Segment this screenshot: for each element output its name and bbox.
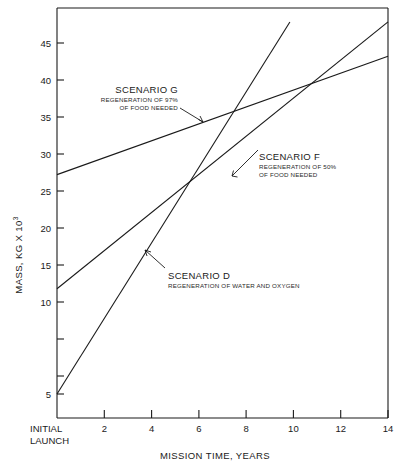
annotation-leaders [145,108,258,268]
y-tick-label-35: 35 [40,112,51,123]
leader-arrow-scenario-g [199,116,204,122]
x-axis-ticks [104,410,388,418]
x-axis-title: MISSION TIME, YEARS [160,450,270,461]
series-line-scenario-g [57,56,388,174]
y-tick-labels: 45 40 35 30 25 20 15 10 5 [40,38,51,400]
y-axis-title: MASS, KG X 103 [12,216,24,293]
y-axis-title-text: MASS, KG X 10 [13,220,24,293]
y-tick-label-30: 30 [40,149,51,160]
svg-text:MASS, KG X 103: MASS, KG X 103 [12,216,24,293]
leader-line-scenario-f [232,150,258,176]
x-origin-label-line1: INITIAL [30,423,62,434]
y-tick-label-10: 10 [40,297,51,308]
y-axis-title-exponent: 3 [12,216,19,220]
annotation-scenario-g-desc-2: OF FOOD NEEDED [120,104,179,111]
x-tick-label-8: 8 [243,423,248,434]
x-tick-label-4: 4 [149,423,154,434]
annotation-scenario-f-desc-1: REGENERATION OF 50% [259,163,337,170]
annotation-scenario-g-desc-1: REGENERATION OF 97% [101,96,179,103]
annotation-scenario-d-title: SCENARIO D [168,270,230,281]
x-tick-label-2: 2 [102,423,107,434]
annotation-scenario-d-desc-1: REGENERATION OF WATER AND OXYGEN [168,282,300,289]
y-tick-label-40: 40 [40,75,51,86]
series-line-scenario-d [57,22,290,394]
y-tick-label-20: 20 [40,223,51,234]
chart-figure: 45 40 35 30 25 20 15 10 5 2 4 6 8 10 [0,0,401,474]
y-tick-label-45: 45 [40,38,51,49]
x-tick-labels: 2 4 6 8 10 12 14 INITIAL LAUNCH [30,423,393,446]
leader-line-scenario-d [145,250,165,268]
series-line-scenario-f [57,22,388,289]
y-tick-label-5: 5 [46,389,51,400]
y-tick-label-25: 25 [40,186,51,197]
annotation-scenario-f-desc-2: OF FOOD NEEDED [259,171,318,178]
series-lines [57,22,388,394]
x-tick-label-12: 12 [335,423,346,434]
x-tick-label-6: 6 [196,423,201,434]
annotation-scenario-f: SCENARIO F REGENERATION OF 50% OF FOOD N… [259,151,337,178]
annotation-scenario-g-title: SCENARIO G [115,84,178,95]
mass-vs-mission-time-chart: 45 40 35 30 25 20 15 10 5 2 4 6 8 10 [0,0,401,474]
x-tick-label-10: 10 [288,423,299,434]
y-axis-ticks [57,43,64,394]
annotation-scenario-g: SCENARIO G REGENERATION OF 97% OF FOOD N… [101,84,179,111]
annotation-scenario-d: SCENARIO D REGENERATION OF WATER AND OXY… [168,270,300,289]
plot-frame [57,8,388,418]
x-tick-label-14: 14 [383,423,394,434]
annotation-scenario-f-title: SCENARIO F [259,151,320,162]
x-origin-label-line2: LAUNCH [30,435,69,446]
y-tick-label-15: 15 [40,260,51,271]
